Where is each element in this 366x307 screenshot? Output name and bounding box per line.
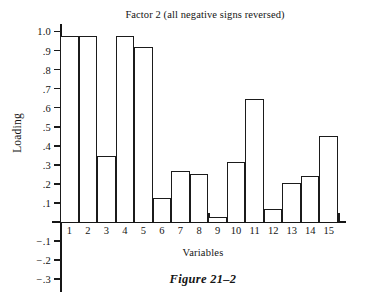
bar <box>153 198 172 222</box>
bar <box>227 162 246 222</box>
bar <box>97 156 116 222</box>
figure-21-2: Factor 2 (all negative signs reversed) L… <box>0 0 366 307</box>
plot-area <box>0 0 366 307</box>
bar <box>301 176 320 222</box>
bar <box>60 36 79 222</box>
bar <box>319 136 338 222</box>
bar <box>79 36 98 222</box>
bar <box>245 99 264 222</box>
bar <box>171 171 190 222</box>
bar <box>190 174 209 222</box>
bar <box>116 36 135 222</box>
figure-caption: Figure 21–2 <box>60 272 346 287</box>
bar <box>264 209 283 222</box>
x-axis-title: Variables <box>60 247 346 258</box>
bar <box>208 217 227 222</box>
bar <box>134 47 153 222</box>
bar <box>282 183 301 222</box>
